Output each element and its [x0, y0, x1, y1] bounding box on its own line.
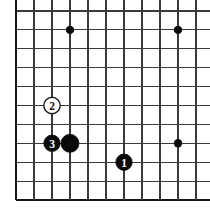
go-board-canvas: 231: [0, 0, 210, 214]
go-board-diagram: 231: [0, 0, 210, 214]
star-point-icon: [66, 26, 74, 34]
star-point-icon: [174, 26, 182, 34]
black-stone[interactable]: [61, 134, 79, 152]
stone-move-number: 3: [49, 138, 55, 150]
stone-move-number: 2: [49, 100, 55, 112]
stone-move-number: 1: [121, 157, 127, 169]
star-point-icon: [174, 139, 182, 147]
